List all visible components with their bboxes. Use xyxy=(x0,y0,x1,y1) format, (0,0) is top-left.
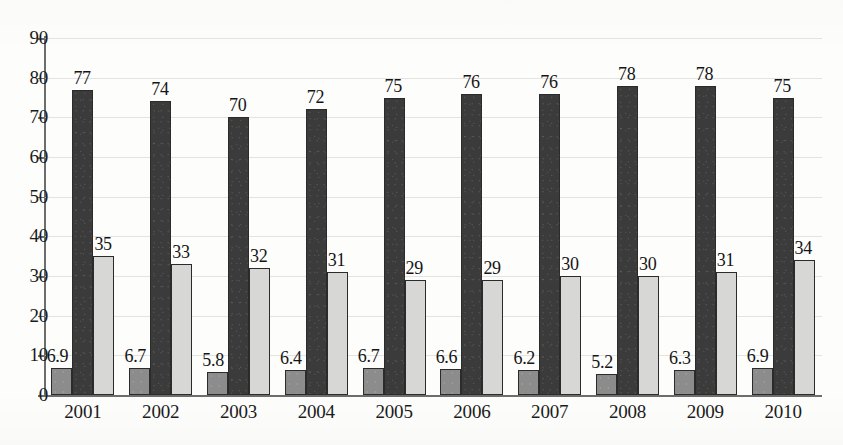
bar-series-3-2010[interactable] xyxy=(794,260,815,395)
x-tick-label-2005: 2005 xyxy=(354,401,434,423)
bar-series-1-2008[interactable] xyxy=(596,374,617,395)
x-tick-label-2001: 2001 xyxy=(43,401,123,423)
y-tick-label-60: 60 xyxy=(14,147,48,166)
bar-value-label: 6.4 xyxy=(280,349,302,367)
bar-value-label: 75 xyxy=(774,77,791,95)
x-tick-label-2009: 2009 xyxy=(665,401,745,423)
bar-group: 6.37831 xyxy=(674,38,737,395)
bar-series-3-2009[interactable] xyxy=(716,272,737,395)
bar-value-label: 6.6 xyxy=(436,348,458,366)
bar-series-3-2006[interactable] xyxy=(482,280,503,395)
x-tick-label-2002: 2002 xyxy=(121,401,201,423)
y-tick-label-30: 30 xyxy=(14,266,48,285)
bar-value-label: 75 xyxy=(385,77,402,95)
bar-series-3-2001[interactable] xyxy=(93,256,114,395)
bar-series-1-2004[interactable] xyxy=(285,370,306,395)
y-tick-label-80: 80 xyxy=(14,68,48,87)
bar-series-3-2005[interactable] xyxy=(405,280,426,395)
bar-value-label: 6.2 xyxy=(513,349,535,367)
y-tick-label-50: 50 xyxy=(14,187,48,206)
bar-chart: 0102030405060708090 6.977356.774335.8703… xyxy=(0,0,843,445)
y-tick-label-70: 70 xyxy=(14,107,48,126)
bar-group: 6.97735 xyxy=(51,38,114,395)
y-tick-label-10: 10 xyxy=(14,345,48,364)
bar-series-1-2005[interactable] xyxy=(363,368,384,395)
bar-group: 6.77529 xyxy=(363,38,426,395)
x-tick-label-2010: 2010 xyxy=(743,401,823,423)
y-tick-label-40: 40 xyxy=(14,226,48,245)
bar-series-2-2004[interactable] xyxy=(306,109,327,395)
bar-value-label: 35 xyxy=(94,235,111,253)
bar-group: 6.67629 xyxy=(440,38,503,395)
bar-series-1-2002[interactable] xyxy=(129,368,150,395)
bar-group: 5.87032 xyxy=(207,38,270,395)
bar-series-1-2010[interactable] xyxy=(752,368,773,395)
bar-series-2-2009[interactable] xyxy=(695,86,716,395)
x-tick-label-2003: 2003 xyxy=(199,401,279,423)
x-tick-label-2007: 2007 xyxy=(510,401,590,423)
bar-value-label: 6.9 xyxy=(47,347,69,365)
y-tick-label-90: 90 xyxy=(14,28,48,47)
bar-group: 6.27630 xyxy=(518,38,581,395)
bar-value-label: 29 xyxy=(406,259,423,277)
bar-series-1-2001[interactable] xyxy=(51,368,72,395)
bar-value-label: 33 xyxy=(172,243,189,261)
bar-value-label: 74 xyxy=(151,80,168,98)
bar-series-1-2009[interactable] xyxy=(674,370,695,395)
bar-group: 6.77433 xyxy=(129,38,192,395)
bar-value-label: 6.7 xyxy=(124,347,146,365)
bar-group: 6.97534 xyxy=(752,38,815,395)
bar-value-label: 6.7 xyxy=(358,347,380,365)
bar-value-label: 32 xyxy=(250,247,267,265)
bar-value-label: 72 xyxy=(307,88,324,106)
x-tick-label-2006: 2006 xyxy=(432,401,512,423)
bar-series-2-2003[interactable] xyxy=(228,117,249,395)
bar-series-2-2006[interactable] xyxy=(461,94,482,395)
bar-value-label: 76 xyxy=(462,73,479,91)
bar-value-label: 78 xyxy=(696,65,713,83)
x-tick-label-2008: 2008 xyxy=(588,401,668,423)
bar-value-label: 29 xyxy=(483,259,500,277)
bar-series-3-2008[interactable] xyxy=(638,276,659,395)
bar-value-label: 30 xyxy=(561,255,578,273)
bar-series-3-2004[interactable] xyxy=(327,272,348,395)
bar-series-3-2003[interactable] xyxy=(249,268,270,395)
bar-group: 6.47231 xyxy=(285,38,348,395)
bar-series-3-2007[interactable] xyxy=(560,276,581,395)
bar-value-label: 78 xyxy=(618,65,635,83)
bar-value-label: 77 xyxy=(73,69,90,87)
bar-value-label: 31 xyxy=(717,251,734,269)
bar-series-1-2003[interactable] xyxy=(207,372,228,395)
bar-series-3-2002[interactable] xyxy=(171,264,192,395)
bar-value-label: 6.3 xyxy=(669,349,691,367)
bar-value-label: 5.8 xyxy=(202,351,224,369)
bar-value-label: 6.9 xyxy=(747,347,769,365)
bar-series-2-2007[interactable] xyxy=(539,94,560,395)
bar-series-2-2005[interactable] xyxy=(384,98,405,396)
x-axis-line xyxy=(44,395,822,397)
bar-series-2-2002[interactable] xyxy=(150,101,171,395)
bar-series-2-2008[interactable] xyxy=(617,86,638,395)
bar-series-1-2007[interactable] xyxy=(518,370,539,395)
bar-group: 5.27830 xyxy=(596,38,659,395)
bar-value-label: 5.2 xyxy=(591,353,613,371)
y-axis-line xyxy=(44,36,46,396)
bar-series-2-2010[interactable] xyxy=(773,98,794,396)
bar-value-label: 76 xyxy=(540,73,557,91)
bar-series-1-2006[interactable] xyxy=(440,369,461,395)
x-tick-label-2004: 2004 xyxy=(276,401,356,423)
y-tick-label-20: 20 xyxy=(14,306,48,325)
bar-value-label: 31 xyxy=(328,251,345,269)
bar-value-label: 70 xyxy=(229,96,246,114)
bar-value-label: 30 xyxy=(639,255,656,273)
bar-value-label: 34 xyxy=(795,239,812,257)
bar-series-2-2001[interactable] xyxy=(72,90,93,395)
